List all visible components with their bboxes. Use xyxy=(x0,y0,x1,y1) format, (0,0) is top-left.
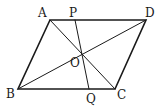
segment-pq xyxy=(75,20,89,89)
label-p: P xyxy=(69,6,77,20)
geometry-diagram: A P D O B Q C xyxy=(0,0,164,108)
label-c: C xyxy=(117,88,126,102)
label-b: B xyxy=(6,87,15,101)
label-d: D xyxy=(145,6,155,20)
label-a: A xyxy=(37,6,47,20)
label-o: O xyxy=(70,56,80,70)
label-q: Q xyxy=(86,92,96,106)
parallelogram-figure: A P D O B Q C xyxy=(0,0,164,108)
